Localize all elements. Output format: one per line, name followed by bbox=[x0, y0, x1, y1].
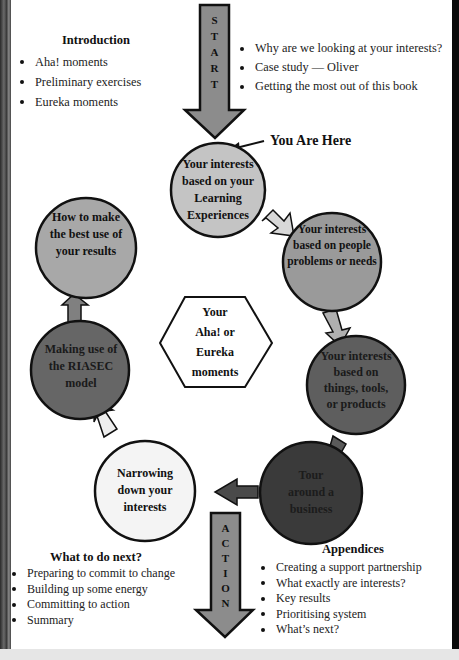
you-are-here-label: You Are Here bbox=[270, 133, 351, 149]
list-item: Case study — Oliver bbox=[239, 58, 442, 77]
list-item: What exactly are interests? bbox=[260, 576, 422, 592]
node-learning-label: Your interests based on your Learning Ex… bbox=[171, 150, 265, 230]
node-line: Making use of bbox=[45, 341, 118, 358]
list-item: Aha! moments bbox=[19, 52, 141, 72]
list-item: Creating a support partnership bbox=[260, 560, 422, 576]
connector-tour-to-narrowing bbox=[215, 479, 258, 505]
node-line: based on your bbox=[182, 173, 254, 190]
start-letter: A bbox=[200, 44, 229, 60]
node-line: Your interests bbox=[182, 156, 254, 173]
start-letter: T bbox=[200, 76, 229, 92]
start-letter: T bbox=[200, 28, 229, 44]
list-item: Why are we looking at your interests? bbox=[239, 39, 442, 58]
list-item: Key results bbox=[260, 591, 422, 607]
list-item: What’s next? bbox=[260, 622, 422, 638]
node-line: Experiences bbox=[182, 207, 254, 224]
list-item: Eureka moments bbox=[19, 92, 141, 112]
center-hexagon-label: Your Aha! or Eureka moments bbox=[170, 300, 260, 384]
node-line: Tour bbox=[288, 467, 334, 484]
node-line: or products bbox=[320, 396, 391, 412]
node-line: based on bbox=[320, 364, 391, 380]
introduction-title: Introduction bbox=[62, 33, 130, 48]
list-item: Prioritising system bbox=[260, 607, 422, 623]
list-item: Preparing to commit to change bbox=[11, 566, 175, 582]
action-arrow-letters: A C T I O N bbox=[211, 521, 240, 611]
list-item: Summary bbox=[11, 613, 175, 629]
what-next-title: What to do next? bbox=[50, 550, 142, 565]
node-line: Your interests bbox=[320, 348, 391, 364]
node-line: Learning bbox=[182, 190, 254, 207]
node-riasec-label: Making use of the RIASEC model bbox=[32, 336, 130, 396]
action-letter: O bbox=[211, 581, 240, 596]
start-topics-list: Why are we looking at your interests? Ca… bbox=[239, 39, 442, 96]
node-line: model bbox=[45, 375, 118, 392]
node-line: the RIASEC bbox=[45, 358, 118, 375]
what-next-list: Preparing to commit to change Building u… bbox=[11, 566, 175, 628]
center-line: moments bbox=[192, 362, 239, 382]
node-line: the best use of bbox=[50, 226, 122, 243]
node-narrowing-label: Narrowing down your interests bbox=[96, 460, 194, 520]
node-line: How to make bbox=[50, 209, 122, 226]
action-letter: I bbox=[211, 566, 240, 581]
node-line: based on people bbox=[287, 237, 377, 253]
node-line: around a bbox=[288, 484, 334, 501]
appendices-list: Creating a support partnership What exac… bbox=[260, 560, 422, 638]
node-line: problems or needs bbox=[287, 253, 377, 269]
action-letter: A bbox=[211, 521, 240, 536]
list-item: Building up some energy bbox=[11, 582, 175, 598]
node-people-label: Your interests based on people problems … bbox=[281, 215, 383, 275]
you-are-here-pointer-line bbox=[236, 141, 264, 148]
list-item: Getting the most out of this book bbox=[239, 77, 442, 96]
start-letter: S bbox=[200, 12, 229, 28]
start-letter: R bbox=[200, 60, 229, 76]
center-line: Aha! or bbox=[192, 322, 239, 342]
action-letter: N bbox=[211, 596, 240, 611]
action-letter: C bbox=[211, 536, 240, 551]
introduction-list: Aha! moments Preliminary exercises Eurek… bbox=[19, 52, 141, 112]
node-line: down your bbox=[117, 482, 173, 499]
action-letter: T bbox=[211, 551, 240, 566]
node-tour-label: Tour around a business bbox=[262, 462, 360, 522]
appendices-title: Appendices bbox=[322, 542, 384, 557]
center-line: Your bbox=[192, 302, 239, 322]
list-item: Committing to action bbox=[11, 597, 175, 613]
node-line: Your interests bbox=[287, 221, 377, 237]
node-things-label: Your interests based on things, tools, o… bbox=[307, 343, 405, 417]
node-best-use-label: How to make the best use of your results bbox=[36, 206, 136, 262]
node-line: business bbox=[288, 501, 334, 518]
node-line: things, tools, bbox=[320, 380, 391, 396]
node-line: interests bbox=[117, 499, 173, 516]
list-item: Preliminary exercises bbox=[19, 72, 141, 92]
node-line: Narrowing bbox=[117, 465, 173, 482]
center-line: Eureka bbox=[192, 342, 239, 362]
start-arrow-letters: S T A R T bbox=[200, 12, 229, 92]
node-line: your results bbox=[50, 243, 122, 260]
